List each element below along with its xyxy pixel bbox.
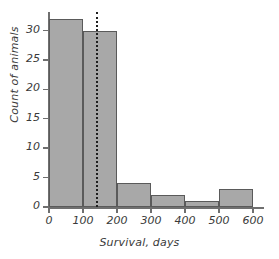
x-axis-tick <box>184 207 185 213</box>
y-axis-tick-label: 10 <box>18 140 40 153</box>
histogram-bar <box>185 201 219 207</box>
x-axis-tick <box>218 207 219 213</box>
mean-reference-line <box>96 12 98 207</box>
x-axis-tick-label: 0 <box>32 214 66 227</box>
histogram-figure: Count of animals Survival, days 05101520… <box>0 0 279 259</box>
histogram-bar <box>151 195 185 207</box>
x-axis-title: Survival, days <box>0 236 279 249</box>
y-axis-tick-label: 15 <box>18 111 40 124</box>
x-axis-tick-label: 200 <box>100 214 134 227</box>
x-axis-line <box>49 207 264 209</box>
x-axis-tick-label: 500 <box>202 214 236 227</box>
x-axis-tick-label: 600 <box>236 214 270 227</box>
histogram-bar <box>49 19 83 207</box>
y-axis-tick-label: 25 <box>18 52 40 65</box>
histogram-bar <box>83 31 117 208</box>
y-axis-tick-label: 20 <box>18 81 40 94</box>
x-axis-tick <box>48 207 49 213</box>
x-axis-tick <box>116 207 117 213</box>
histogram-bar <box>117 183 151 207</box>
x-axis-tick-label: 300 <box>134 214 168 227</box>
y-axis-tick-label: 30 <box>18 23 40 36</box>
y-axis-tick-label: 5 <box>18 170 40 183</box>
x-axis-tick <box>150 207 151 213</box>
y-axis-tick-label: 0 <box>18 199 40 212</box>
x-axis-tick <box>252 207 253 213</box>
histogram-bar <box>219 189 253 207</box>
x-axis-tick-label: 400 <box>168 214 202 227</box>
x-axis-tick <box>82 207 83 213</box>
x-axis-tick-label: 100 <box>66 214 100 227</box>
